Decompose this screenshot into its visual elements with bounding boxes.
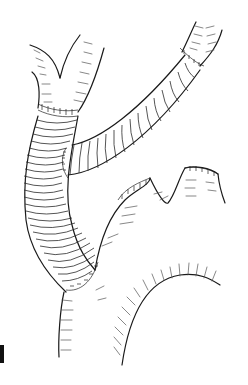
illustration: [0, 0, 248, 385]
upper-bifurcating-vessel: [30, 35, 104, 112]
upper-anastomosis-stitches: [38, 104, 78, 117]
upper-right-vessel-stump: [180, 22, 222, 66]
panel-label-mark: [0, 345, 4, 363]
main-graft-limb: [24, 116, 95, 292]
side-branch-stumps: [95, 166, 225, 270]
side-graft-limb: [62, 55, 200, 178]
vascular-graft-drawing: [0, 0, 248, 385]
